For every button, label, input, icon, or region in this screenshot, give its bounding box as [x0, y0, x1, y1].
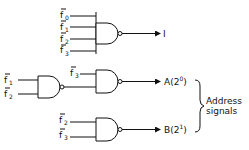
- nand-gate-top: [96, 23, 118, 44]
- svg-text:1: 1: [65, 26, 69, 33]
- svg-text:f: f: [60, 34, 64, 44]
- address-b-group: f 2 f 3 B(21): [59, 114, 187, 141]
- input-label-f1: f 1: [60, 21, 69, 33]
- svg-text:3: 3: [75, 72, 79, 79]
- input-label-f3-b: f 3: [59, 129, 68, 141]
- svg-text:2: 2: [65, 38, 69, 45]
- top-nand-gate-group: f 0 f 1 f 2 f 3 I: [60, 9, 166, 57]
- svg-text:2: 2: [9, 93, 13, 100]
- svg-text:f: f: [59, 130, 63, 140]
- nand-gate-b: [96, 118, 118, 141]
- nand-gate-a1: [38, 76, 60, 98]
- logic-diagram: f 0 f 1 f 2 f 3 I: [0, 0, 249, 150]
- svg-text:f: f: [4, 89, 8, 99]
- input-label-f1-a: f 1: [4, 74, 13, 86]
- svg-text:3: 3: [65, 50, 69, 57]
- output-label-A: A(20): [164, 75, 187, 87]
- svg-text:f: f: [4, 75, 8, 85]
- brace-label-address: Address: [206, 96, 242, 106]
- svg-text:1: 1: [9, 79, 13, 86]
- svg-text:3: 3: [64, 134, 68, 141]
- brace-label-signals: signals: [206, 106, 238, 116]
- svg-text:f: f: [60, 22, 64, 32]
- svg-text:0: 0: [65, 14, 69, 21]
- input-label-f2: f 2: [60, 33, 69, 45]
- svg-text:f: f: [60, 45, 64, 55]
- svg-text:2: 2: [64, 119, 68, 126]
- inversion-bubble: [118, 128, 122, 132]
- svg-text:f: f: [60, 10, 64, 20]
- inversion-bubble: [60, 85, 64, 89]
- inversion-bubble: [118, 32, 122, 36]
- input-label-f3-a: f 3: [70, 67, 79, 79]
- nand-gate-a2: [96, 70, 118, 93]
- output-label-I: I: [163, 29, 166, 39]
- input-label-f2-a: f 2: [4, 88, 13, 100]
- input-label-f2-b: f 2: [59, 114, 68, 126]
- svg-text:f: f: [59, 115, 63, 125]
- input-label-f3: f 3: [60, 45, 69, 57]
- brace: [195, 80, 204, 132]
- svg-text:f: f: [70, 68, 74, 78]
- address-a-group: f 1 f 2 f 3 A(20): [4, 67, 187, 100]
- inversion-bubble: [118, 80, 122, 84]
- input-label-f0: f 0: [60, 9, 69, 21]
- output-label-B: B(21): [164, 123, 187, 135]
